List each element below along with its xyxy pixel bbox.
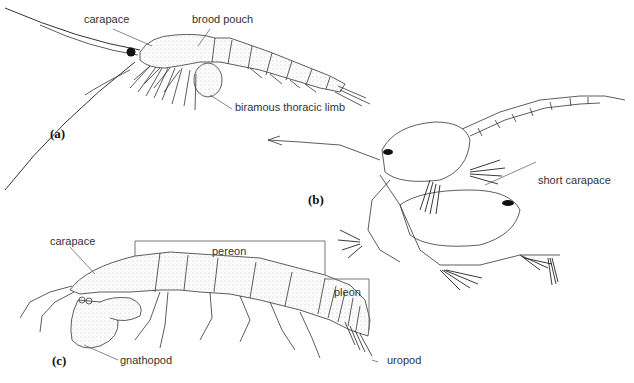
- label-b-short-carapace: short carapace: [538, 175, 611, 186]
- panel-label-c: (c): [52, 354, 66, 367]
- label-a-biramous-thoracic-limb: biramous thoracic limb: [235, 102, 345, 113]
- specimen-c-amphipod: [20, 241, 378, 362]
- label-c-uropod: uropod: [387, 355, 421, 366]
- panel-label-a: (a): [50, 127, 65, 140]
- label-c-gnathopod: gnathopod: [120, 355, 172, 366]
- label-a-brood-pouch: brood pouch: [192, 14, 253, 25]
- panel-label-b: (b): [308, 193, 324, 206]
- label-c-carapace: carapace: [50, 236, 95, 247]
- label-c-pleon: pleon: [334, 287, 361, 298]
- specimen-a-mysid: [5, 8, 370, 190]
- label-c-pereon: pereon: [212, 246, 246, 257]
- label-a-carapace: carapace: [84, 14, 129, 25]
